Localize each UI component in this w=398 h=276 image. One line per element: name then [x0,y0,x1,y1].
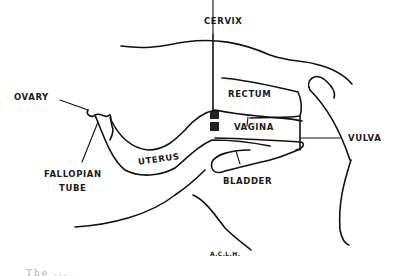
sacrum-outline [309,77,350,160]
cervix-hatch-upper [210,111,219,119]
label-ovary: OVARY [14,93,49,102]
ovary-fallopian-squiggle [87,110,113,140]
bladder-outline [212,150,298,173]
label-rectum: RECTUM [228,90,271,99]
anatomy-diagram: CERVIX OVARY RECTUM VAGINA VULVA UTERUS … [0,0,398,276]
label-fallopian-tube-line1: FALLOPIAN [44,170,102,179]
diagram-drawing [0,0,398,276]
bladder-leader-line [236,151,240,164]
label-vagina: VAGINA [234,123,274,132]
pubic-outline [193,195,251,250]
posterior-outline [340,160,351,245]
ovary-leader-line [60,100,88,110]
label-fallopian-tube-line2: TUBE [59,184,86,193]
cervix-hatch-lower [210,122,219,131]
upper-outline [121,41,352,84]
label-vulva: VULVA [348,134,381,143]
fallopian-tube-leader-line [82,122,98,162]
label-cervix: CERVIX [204,17,242,26]
artist-signature: A.C.L.H. [210,251,240,257]
label-bladder: BLADDER [223,177,272,186]
caption-fragment: The ... [26,268,69,276]
